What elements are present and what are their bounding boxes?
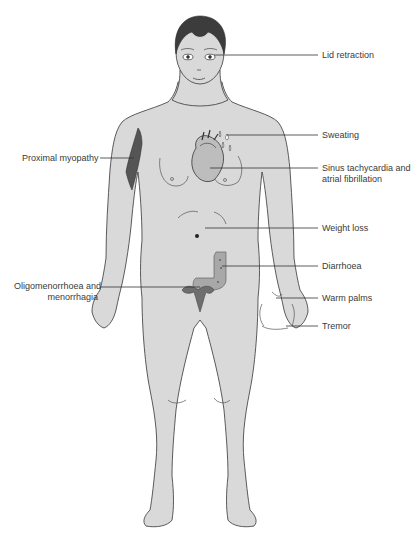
label-oligomenorrhoea-line2: menorrhagia [14,292,98,303]
label-diarrhoea: Diarrhoea [322,261,362,272]
label-sweating: Sweating [322,130,359,141]
label-warm-palms: Warm palms [322,293,372,304]
label-sinus-tachycardia-line2: atrial fibrillation [322,174,411,185]
label-sinus-tachycardia: Sinus tachycardia and atrial fibrillatio… [322,163,411,185]
label-tremor: Tremor [322,321,351,332]
label-oligomenorrhoea-line1: Oligomenorrhoea and [14,281,98,292]
label-weight-loss: Weight loss [322,223,368,234]
navel [195,234,199,238]
head [172,16,228,106]
diagram-canvas: Lid retraction Sweating Proximal myopath… [0,0,416,538]
label-oligomenorrhoea: Oligomenorrhoea and menorrhagia [14,281,98,303]
label-lid-retraction: Lid retraction [322,50,374,61]
label-sinus-tachycardia-line1: Sinus tachycardia and [322,163,411,174]
label-proximal-myopathy: Proximal myopathy [22,153,99,164]
